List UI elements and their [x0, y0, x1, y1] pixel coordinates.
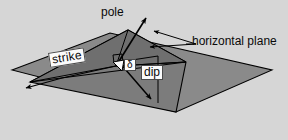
- label-horizontal-plane: horizontal plane: [192, 35, 277, 47]
- diagram-canvas: pole horizontal plane strike dip δ: [0, 0, 288, 140]
- label-pole: pole: [101, 6, 124, 18]
- label-dip-angle-symbol: δ: [124, 59, 136, 71]
- label-dip: dip: [141, 65, 163, 80]
